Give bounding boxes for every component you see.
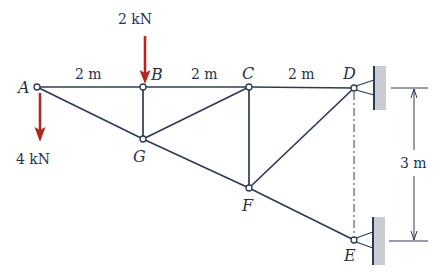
member-fe <box>249 188 354 240</box>
joint-label-d: D <box>342 64 356 83</box>
load-label-b: 2 kN <box>118 11 152 27</box>
joint-g <box>140 136 146 142</box>
joint-label-f: F <box>241 196 254 215</box>
member-gf <box>143 139 249 188</box>
joint-label-b: B <box>150 65 163 84</box>
joint-b <box>140 84 146 90</box>
member-ag <box>37 87 143 139</box>
truss-members <box>37 87 354 240</box>
member-fd <box>249 88 354 188</box>
load-arrow-b <box>140 36 151 84</box>
load-arrow-a <box>35 93 46 142</box>
joint-d <box>351 85 357 91</box>
joint-label-g: G <box>133 147 146 166</box>
joint-label-a: A <box>16 78 30 97</box>
truss-figure: 2 kN 4 kN A B C D E F G 2 m 2 m 2 m 3 m <box>0 0 443 273</box>
height-label: 3 m <box>400 155 427 171</box>
wall-support-e <box>356 217 385 265</box>
load-label-a: 4 kN <box>16 151 50 167</box>
joint-a <box>34 84 40 90</box>
joint-label-e: E <box>343 246 356 265</box>
member-cd <box>249 87 354 88</box>
member-gc <box>143 87 249 139</box>
joint-e <box>351 237 357 243</box>
truss-diagram: 2 kN 4 kN A B C D E F G 2 m 2 m 2 m 3 m <box>0 0 443 273</box>
joint-f <box>246 185 252 191</box>
span-label-ab: 2 m <box>75 66 102 82</box>
span-label-bc: 2 m <box>191 66 218 82</box>
joint-label-c: C <box>242 64 254 83</box>
joint-c <box>246 84 252 90</box>
wall-support-d <box>356 66 386 110</box>
span-label-cd: 2 m <box>288 66 315 82</box>
